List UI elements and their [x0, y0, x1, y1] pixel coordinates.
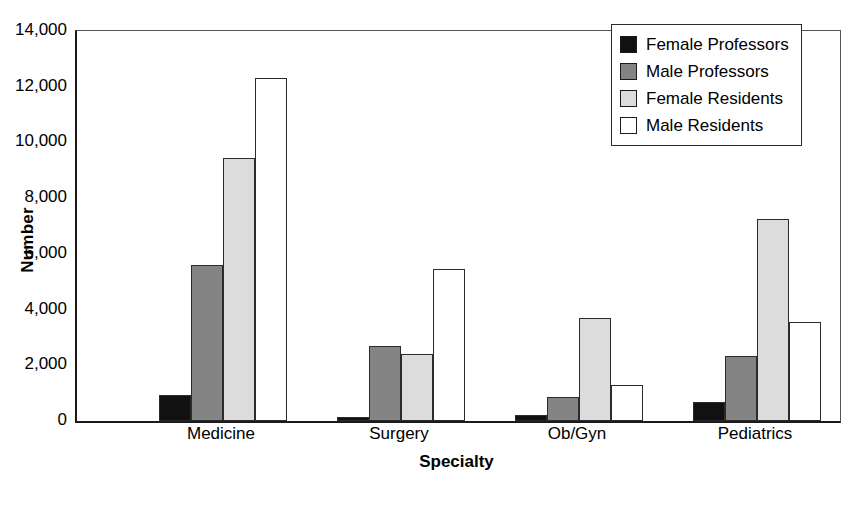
y-axis-tick-label: 0	[0, 410, 75, 430]
y-axis-tick-label: 4,000	[0, 299, 75, 319]
legend-item: Male Residents	[620, 112, 789, 139]
legend-item-label: Female Residents	[646, 90, 783, 107]
y-axis-tick-labels: 02,0004,0006,0008,00010,00012,00014,000	[0, 0, 75, 506]
bar	[547, 397, 579, 421]
bar	[433, 269, 465, 421]
bar	[579, 318, 611, 421]
y-axis-tick-label: 12,000	[0, 76, 75, 96]
legend-item: Female Residents	[620, 85, 789, 112]
bar	[611, 385, 643, 421]
y-axis-tick-label: 8,000	[0, 187, 75, 207]
bar	[223, 158, 255, 421]
legend-swatch-icon	[620, 90, 637, 107]
bar	[757, 219, 789, 421]
bar	[191, 265, 223, 421]
x-axis-tick-labels: MedicineSurgeryOb/GynPediatrics	[75, 424, 838, 454]
bar	[337, 417, 369, 421]
legend-item: Male Professors	[620, 58, 789, 85]
x-axis-tick-label: Surgery	[369, 424, 429, 444]
bar	[401, 354, 433, 421]
legend-item-label: Female Professors	[646, 36, 789, 53]
legend-item: Female Professors	[620, 31, 789, 58]
bar	[693, 402, 725, 422]
x-axis-tick-label: Ob/Gyn	[548, 424, 607, 444]
bar	[255, 78, 287, 421]
y-axis-tick-label: 10,000	[0, 131, 75, 151]
legend-item-label: Male Professors	[646, 63, 769, 80]
chart-legend: Female ProfessorsMale ProfessorsFemale R…	[611, 24, 802, 146]
bar	[789, 322, 821, 421]
legend-swatch-icon	[620, 36, 637, 53]
bar-group	[337, 31, 465, 421]
bar-chart-figure: Number 02,0004,0006,0008,00010,00012,000…	[0, 0, 864, 506]
bar	[515, 415, 547, 421]
y-axis-tick-label: 14,000	[0, 20, 75, 40]
legend-item-label: Male Residents	[646, 117, 763, 134]
legend-swatch-icon	[620, 63, 637, 80]
bar	[369, 346, 401, 421]
bar-group	[159, 31, 287, 421]
x-axis-tick-label: Medicine	[187, 424, 255, 444]
y-axis-tick-label: 2,000	[0, 354, 75, 374]
bar	[159, 395, 191, 421]
y-axis-tick-label: 6,000	[0, 243, 75, 263]
bar	[725, 356, 757, 421]
x-axis-title: Specialty	[75, 452, 838, 472]
x-axis-tick-label: Pediatrics	[718, 424, 793, 444]
legend-swatch-icon	[620, 117, 637, 134]
